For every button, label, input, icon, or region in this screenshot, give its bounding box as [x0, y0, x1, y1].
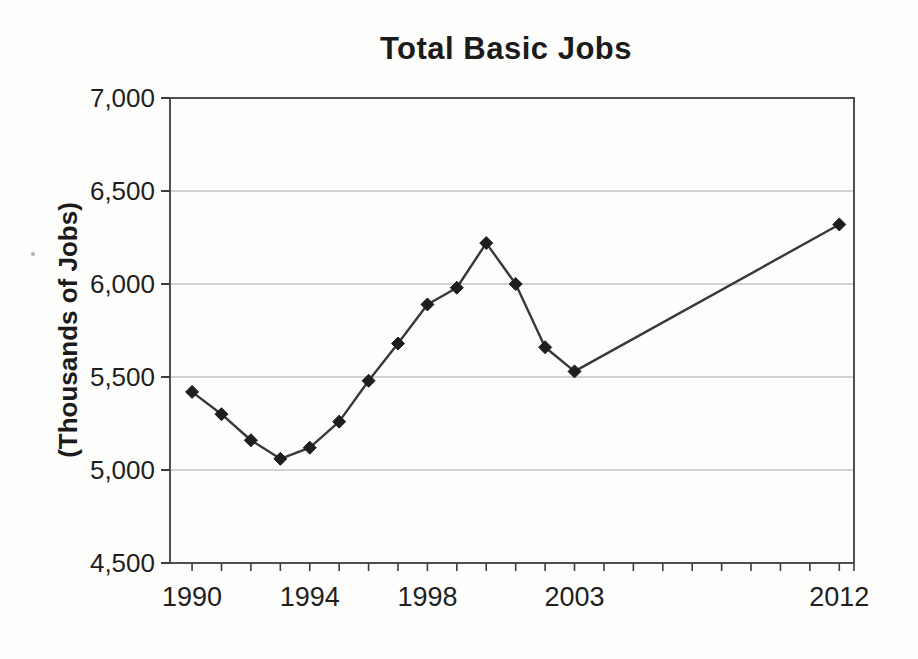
- x-tick-label-1998: 1998: [397, 582, 457, 612]
- x-tick-label-1990: 1990: [162, 582, 222, 612]
- gridlines-layer: [170, 191, 854, 470]
- x-tick-label-1994: 1994: [280, 582, 340, 612]
- plot-border: [170, 98, 854, 563]
- y-tick-label-5500: 5,500: [90, 362, 155, 392]
- data-point-1993: [274, 452, 287, 465]
- data-point-1999: [450, 281, 463, 294]
- scanned-chart-page: Total Basic Jobs (Thousands of Jobs) 4,5…: [0, 0, 918, 659]
- y-tick-label-6500: 6,500: [90, 176, 155, 206]
- plot-border-layer: [170, 98, 854, 563]
- x-tick-label-2003: 2003: [544, 582, 604, 612]
- line-chart-plot: 4,5005,0005,5006,0006,5007,0001990199419…: [0, 0, 918, 659]
- y-tick-label-7000: 7,000: [90, 83, 155, 113]
- y-tick-label-6000: 6,000: [90, 269, 155, 299]
- scan-speck: [31, 252, 35, 256]
- y-tick-label-4500: 4,500: [90, 548, 155, 578]
- tick-labels-layer: 4,5005,0005,5006,0006,5007,0001990199419…: [90, 83, 869, 612]
- axis-ticks-layer: [161, 98, 854, 571]
- data-point-2012: [833, 218, 846, 231]
- data-series-layer: [186, 218, 846, 465]
- y-tick-label-5000: 5,000: [90, 455, 155, 485]
- x-tick-label-2012: 2012: [809, 582, 869, 612]
- jobs-trend-line: [192, 224, 839, 458]
